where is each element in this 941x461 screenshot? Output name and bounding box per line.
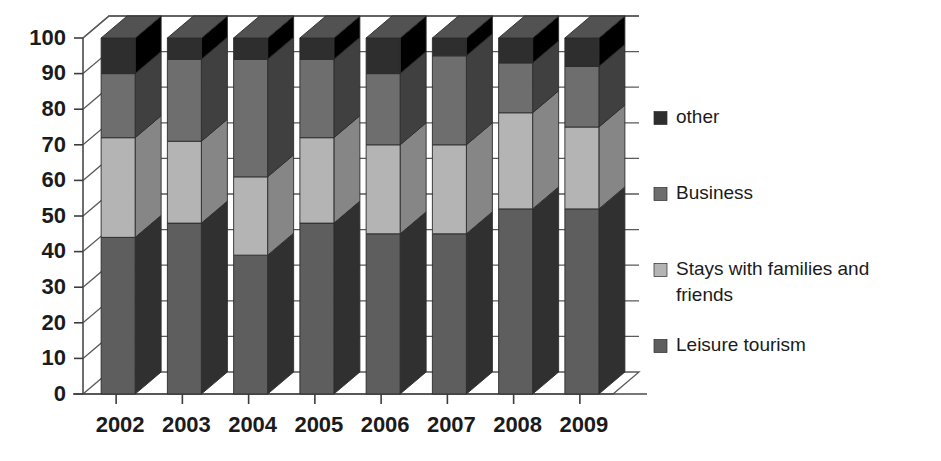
legend-label: Stays with families andfriends [676, 258, 869, 305]
x-axis-tick-label: 2006 [361, 412, 410, 437]
chart-canvas: 0102030405060708090100 20022003200420052… [0, 0, 941, 461]
legend-swatch-icon [654, 188, 667, 201]
x-axis-ticks: 20022003200420052006200720082009 [96, 394, 609, 437]
x-axis-tick-label: 2008 [493, 412, 542, 437]
legend-label: other [676, 106, 720, 127]
bar-segment-2007-2 [432, 56, 466, 145]
bar-column-2007 [432, 16, 492, 394]
bar-segment-2004-3 [234, 38, 268, 59]
y-axis-tick-label: 60 [42, 167, 66, 192]
legend-label: Business [676, 182, 753, 203]
bar-segment-2004-0 [234, 255, 268, 394]
y-axis-ticks: 0102030405060708090100 [29, 25, 83, 406]
bar-column-2009 [565, 16, 625, 394]
legend-swatch-icon [654, 340, 667, 353]
x-axis-tick-label: 2002 [96, 412, 145, 437]
bar-segment-2008-3 [499, 38, 533, 63]
chart-floor [83, 372, 639, 394]
bar-segment-2003-1 [167, 141, 201, 223]
bar-segment-2009-1 [565, 127, 599, 209]
bar-segment-2002-2 [101, 74, 135, 138]
legend-swatch-icon [654, 264, 667, 277]
y-axis-tick-label: 0 [54, 381, 66, 406]
bar-segment-2006-0 [366, 234, 400, 394]
bar-column-2004 [234, 16, 294, 394]
bar-segment-2006-3 [366, 38, 400, 74]
x-axis-tick-label: 2009 [559, 412, 608, 437]
bar-segment-2005-0 [300, 223, 334, 394]
bar-column-2008 [499, 16, 559, 394]
bar-segment-2005-3 [300, 38, 334, 59]
y-axis-tick-label: 90 [42, 60, 66, 85]
legend-item-business[interactable]: Business [654, 182, 753, 203]
y-axis-tick-label: 80 [42, 96, 66, 121]
bar-segment-2007-1 [432, 145, 466, 234]
bar-segment-2009-0 [565, 209, 599, 394]
legend-swatch-icon [654, 112, 667, 125]
bar-segment-2006-2 [366, 74, 400, 145]
bar-column-2003 [167, 16, 227, 394]
y-axis-tick-label: 40 [42, 238, 66, 263]
bar-segment-2002-3 [101, 38, 135, 74]
bar-segment-2004-2 [234, 59, 268, 176]
bar-column-2006 [366, 16, 426, 394]
bar-segment-2003-3 [167, 38, 201, 59]
bar-segment-2003-2 [167, 59, 201, 141]
legend-item-other[interactable]: other [654, 106, 720, 127]
bar-segment-2009-3 [565, 38, 599, 66]
bar-segment-2009-2 [565, 66, 599, 127]
y-axis-tick-label: 50 [42, 203, 66, 228]
bar-segment-2008-2 [499, 63, 533, 113]
bar-segment-2004-1 [234, 177, 268, 255]
bar-segment-2003-0 [167, 223, 201, 394]
y-axis-tick-label: 70 [42, 132, 66, 157]
y-axis-tick-label: 10 [42, 345, 66, 370]
bar-column-2002 [101, 16, 161, 394]
bar-series [101, 16, 625, 394]
bar-column-2005 [300, 16, 360, 394]
x-axis-tick-label: 2004 [228, 412, 278, 437]
y-axis-tick-label: 20 [42, 310, 66, 335]
bar-segment-2007-3 [432, 38, 466, 56]
x-axis-tick-label: 2003 [162, 412, 211, 437]
chart-legend: otherBusinessStays with families andfrie… [654, 106, 869, 355]
bar-segment-2008-1 [499, 113, 533, 209]
bar-segment-2002-0 [101, 237, 135, 394]
legend-item-leisure-tourism[interactable]: Leisure tourism [654, 334, 806, 355]
bar-segment-2005-2 [300, 59, 334, 137]
bar-segment-2008-0 [499, 209, 533, 394]
bar-segment-2002-1 [101, 138, 135, 238]
bar-segment-2005-1 [300, 138, 334, 223]
legend-item-stays-with-families-and-friends[interactable]: Stays with families andfriends [654, 258, 869, 305]
x-axis-tick-label: 2007 [427, 412, 476, 437]
bar-segment-2006-1 [366, 145, 400, 234]
y-axis-tick-label: 30 [42, 274, 66, 299]
stacked-bar-chart: 0102030405060708090100 20022003200420052… [0, 0, 941, 461]
legend-label: Leisure tourism [676, 334, 806, 355]
y-axis-tick-label: 100 [29, 25, 66, 50]
bar-segment-2007-0 [432, 234, 466, 394]
x-axis-tick-label: 2005 [294, 412, 343, 437]
